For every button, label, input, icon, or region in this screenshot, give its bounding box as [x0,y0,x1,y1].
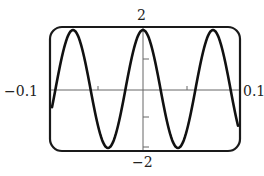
viewing-window-frame [50,27,240,151]
x-min-label: −0.1 [4,84,38,98]
y-min-label: −2 [132,155,153,169]
x-max-label: 0.1 [243,84,264,98]
y-max-label: 2 [137,8,146,22]
sine-curve [52,30,238,148]
plot-area [0,0,264,176]
